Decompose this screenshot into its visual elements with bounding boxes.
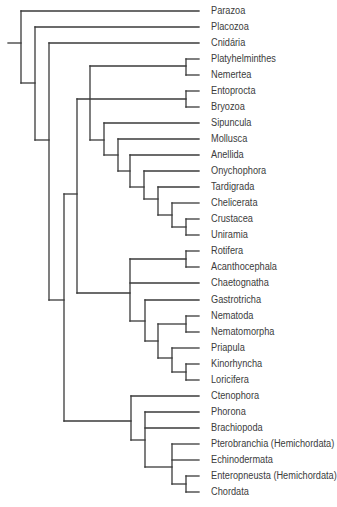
taxon-label: Chordata	[211, 485, 249, 499]
taxon-label: Entoprocta	[211, 84, 256, 98]
taxon-label: Platyhelminthes	[211, 52, 276, 66]
taxon-label: Echinodermata	[211, 453, 273, 467]
taxon-label: Chaetognatha	[211, 276, 269, 290]
taxon-label: Crustacea	[211, 212, 253, 226]
taxon-label: Acanthocephala	[211, 260, 277, 274]
taxon-label: Cnidária	[211, 36, 245, 50]
taxon-label: Chelicerata	[211, 196, 258, 210]
taxon-label: Tardigrada	[211, 180, 254, 194]
taxon-label: Bryozoa	[211, 100, 245, 114]
taxon-label: Mollusca	[211, 132, 247, 146]
taxon-label: Enteropneusta (Hemichordata)	[211, 469, 337, 483]
taxon-label: Placozoa	[211, 20, 249, 34]
taxon-label: Uniramia	[211, 228, 248, 242]
taxon-label: Sipuncula	[211, 116, 251, 130]
taxon-label: Pterobranchia (Hemichordata)	[211, 437, 334, 451]
taxon-label: Loricifera	[211, 373, 249, 387]
taxon-label: Nemertea	[211, 68, 251, 82]
taxon-label: Gastrotricha	[211, 293, 261, 307]
taxon-label: Brachiopoda	[211, 421, 263, 435]
taxon-label: Priapula	[211, 341, 245, 355]
taxon-label: Kinorhyncha	[211, 357, 262, 371]
taxon-label: Rotifera	[211, 244, 243, 258]
taxon-label: Anellida	[211, 148, 244, 162]
taxon-label: Nematomorpha	[211, 325, 274, 339]
taxon-label: Nematoda	[211, 309, 253, 323]
taxon-label: Phorona	[211, 405, 246, 419]
taxon-label: Onychophora	[211, 164, 266, 178]
taxon-label: Ctenophora	[211, 389, 259, 403]
taxon-label: Parazoa	[211, 4, 245, 18]
